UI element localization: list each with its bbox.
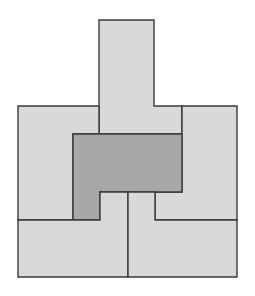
tiling-diagram <box>0 0 255 296</box>
